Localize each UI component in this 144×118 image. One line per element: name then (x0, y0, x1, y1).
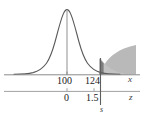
x-axis-tick-label-cutoff: 124 (85, 76, 100, 86)
x-axis-tick-label-mean: 100 (57, 76, 72, 86)
x-axis-label: x (128, 75, 132, 84)
z-axis-tick-label-cutoff: 1.5 (86, 93, 99, 103)
normal-distribution-figure: 100 124 x 0 1.5 z s (0, 0, 144, 118)
cutoff-marker-label: s (100, 106, 103, 114)
z-axis-tick-label-mean: 0 (64, 93, 69, 103)
distribution-plot (0, 0, 144, 118)
z-axis-label: z (129, 93, 133, 102)
